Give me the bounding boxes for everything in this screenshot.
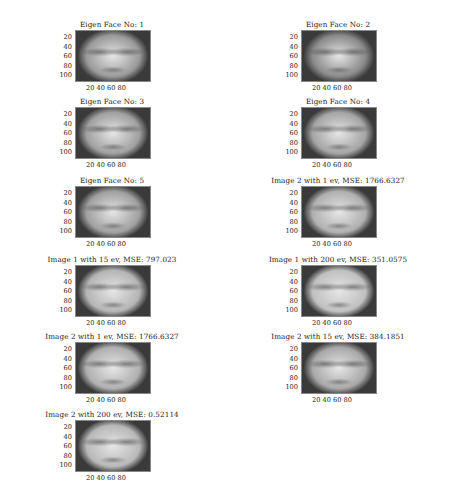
face-render: [302, 31, 376, 81]
face-render: [302, 343, 376, 393]
x-axis-ticks: 20 40 60 80: [312, 319, 352, 327]
y-tick-60: 60: [53, 53, 72, 60]
y-tick-40: 40: [53, 279, 72, 286]
y-tick-40: 40: [53, 434, 72, 441]
y-tick-100: 100: [279, 149, 298, 156]
y-tick-40: 40: [279, 200, 298, 207]
y-tick-100: 100: [53, 72, 72, 79]
subplot-title: Eigen Face No: 5: [0, 176, 227, 185]
face-image: [75, 420, 151, 472]
y-tick-60: 60: [279, 288, 298, 295]
subplot-title: Image 2 with 1 ev, MSE: 1766.6327: [0, 332, 227, 341]
y-tick-60: 60: [279, 53, 298, 60]
y-tick-80: 80: [53, 375, 72, 382]
face-render: [302, 187, 376, 237]
y-tick-100: 100: [279, 384, 298, 391]
x-axis-ticks: 20 40 60 80: [312, 161, 352, 169]
subplot-5: Eigen Face No: 5 20406080100 20 40 60 80: [75, 176, 225, 251]
y-tick-20: 20: [279, 34, 298, 41]
y-tick-80: 80: [279, 375, 298, 382]
y-tick-60: 60: [53, 130, 72, 137]
y-tick-100: 100: [53, 384, 72, 391]
face-render: [302, 266, 376, 316]
y-tick-100: 100: [53, 307, 72, 314]
face-image: [75, 107, 151, 159]
subplot-4: Eigen Face No: 4 20406080100 20 40 60 80: [301, 97, 449, 172]
y-tick-40: 40: [53, 356, 72, 363]
face-image: [301, 265, 377, 317]
y-tick-40: 40: [279, 279, 298, 286]
x-axis-ticks: 20 40 60 80: [86, 319, 126, 327]
y-tick-60: 60: [53, 365, 72, 372]
x-axis-ticks: 20 40 60 80: [86, 240, 126, 248]
subplot-3: Eigen Face No: 3 20406080100 20 40 60 80: [75, 97, 225, 172]
y-tick-20: 20: [53, 190, 72, 197]
y-tick-80: 80: [53, 298, 72, 305]
subplot-title: Image 1 with 200 ev, MSE: 351.0575: [223, 255, 449, 264]
face-render: [76, 108, 150, 158]
y-tick-80: 80: [279, 63, 298, 70]
face-image: [301, 186, 377, 238]
y-tick-80: 80: [53, 63, 72, 70]
x-axis-ticks: 20 40 60 80: [312, 84, 352, 92]
y-tick-100: 100: [279, 72, 298, 79]
subplot-title: Image 2 with 1 ev, MSE: 1766.6327: [223, 176, 449, 185]
subplot-6: Image 2 with 1 ev, MSE: 1766.6327 204060…: [301, 176, 449, 251]
y-tick-40: 40: [53, 44, 72, 51]
subplot-8: Image 1 with 200 ev, MSE: 351.0575 20406…: [301, 255, 449, 330]
subplot-10: Image 2 with 15 ev, MSE: 384.1851 204060…: [301, 332, 449, 407]
face-render: [76, 266, 150, 316]
y-tick-60: 60: [53, 443, 72, 450]
y-tick-20: 20: [53, 269, 72, 276]
y-tick-20: 20: [279, 269, 298, 276]
face-image: [75, 30, 151, 82]
face-render: [76, 31, 150, 81]
y-tick-40: 40: [279, 44, 298, 51]
y-tick-40: 40: [53, 200, 72, 207]
subplot-title: Image 2 with 200 ev, MSE: 0.52114: [0, 410, 227, 419]
face-render: [76, 421, 150, 471]
face-image: [75, 265, 151, 317]
y-tick-60: 60: [279, 209, 298, 216]
face-image: [75, 342, 151, 394]
y-tick-20: 20: [279, 190, 298, 197]
x-axis-ticks: 20 40 60 80: [86, 474, 126, 482]
x-axis-ticks: 20 40 60 80: [86, 396, 126, 404]
y-tick-100: 100: [279, 228, 298, 235]
subplot-title: Eigen Face No: 1: [0, 20, 227, 29]
y-tick-20: 20: [53, 424, 72, 431]
subplot-1: Eigen Face No: 1 20406080100 20 40 60 80: [75, 20, 225, 95]
y-tick-100: 100: [53, 228, 72, 235]
x-axis-ticks: 20 40 60 80: [312, 240, 352, 248]
y-tick-40: 40: [279, 121, 298, 128]
face-image: [301, 342, 377, 394]
y-tick-40: 40: [279, 356, 298, 363]
y-tick-80: 80: [279, 140, 298, 147]
y-tick-100: 100: [53, 149, 72, 156]
y-tick-80: 80: [53, 453, 72, 460]
subplot-title: Image 2 with 15 ev, MSE: 384.1851: [223, 332, 449, 341]
subplot-11: Image 2 with 200 ev, MSE: 0.52114 204060…: [75, 410, 225, 485]
y-tick-80: 80: [53, 140, 72, 147]
x-axis-ticks: 20 40 60 80: [312, 396, 352, 404]
subplot-2: Eigen Face No: 2 20406080100 20 40 60 80: [301, 20, 449, 95]
y-tick-20: 20: [53, 34, 72, 41]
y-tick-60: 60: [279, 365, 298, 372]
y-tick-100: 100: [53, 462, 72, 469]
face-render: [76, 343, 150, 393]
subplot-title: Eigen Face No: 3: [0, 97, 227, 106]
face-render: [76, 187, 150, 237]
x-axis-ticks: 20 40 60 80: [86, 161, 126, 169]
y-tick-20: 20: [53, 346, 72, 353]
y-tick-80: 80: [279, 298, 298, 305]
y-tick-60: 60: [53, 209, 72, 216]
y-tick-60: 60: [53, 288, 72, 295]
face-render: [302, 108, 376, 158]
y-tick-20: 20: [279, 346, 298, 353]
x-axis-ticks: 20 40 60 80: [86, 84, 126, 92]
face-image: [301, 107, 377, 159]
y-tick-20: 20: [279, 111, 298, 118]
subplot-9: Image 2 with 1 ev, MSE: 1766.6327 204060…: [75, 332, 225, 407]
face-image: [75, 186, 151, 238]
y-tick-20: 20: [53, 111, 72, 118]
